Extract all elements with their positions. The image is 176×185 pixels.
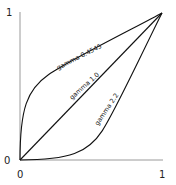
x-tick-0: 0 bbox=[17, 169, 23, 180]
y-tick-0: 0 bbox=[4, 155, 10, 166]
y-tick-1: 1 bbox=[6, 7, 12, 18]
x-tick-1: 1 bbox=[159, 169, 165, 180]
curve-gamma-1-0 bbox=[20, 13, 162, 160]
label-gamma-1-0: gamma 1.0 bbox=[68, 71, 101, 102]
gamma-chart: 1 0 0 1 gamma 0.4545 gamma 1.0 gamma 2.2 bbox=[0, 0, 176, 185]
label-gamma-0-4545: gamma 0.4545 bbox=[55, 42, 103, 72]
label-gamma-2-2: gamma 2.2 bbox=[93, 92, 120, 127]
